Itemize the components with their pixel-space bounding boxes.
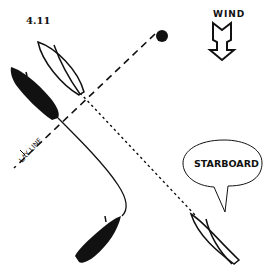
mast-icon [26,72,27,76]
boat-solid-lower [75,216,121,263]
course-track-solid [58,118,126,216]
lay-line-label: LAY LINE [18,136,44,164]
mast-icon [105,216,106,222]
boat-outline-upper [38,42,84,95]
starboard-callout-text: STARBOARD [194,158,259,169]
sailing-diagram: 4.11 WIND LAY LINE STARBOARD [0,0,280,280]
boat-solid-upper [11,67,59,120]
course-track-dotted [80,93,195,215]
boat-outline-lower [191,214,239,264]
figure-number: 4.11 [26,15,50,26]
windward-mark-icon [156,30,168,42]
starboard-callout: STARBOARD [183,140,262,212]
wind-label: WIND [213,9,245,19]
wind-arrow-icon [210,23,234,60]
